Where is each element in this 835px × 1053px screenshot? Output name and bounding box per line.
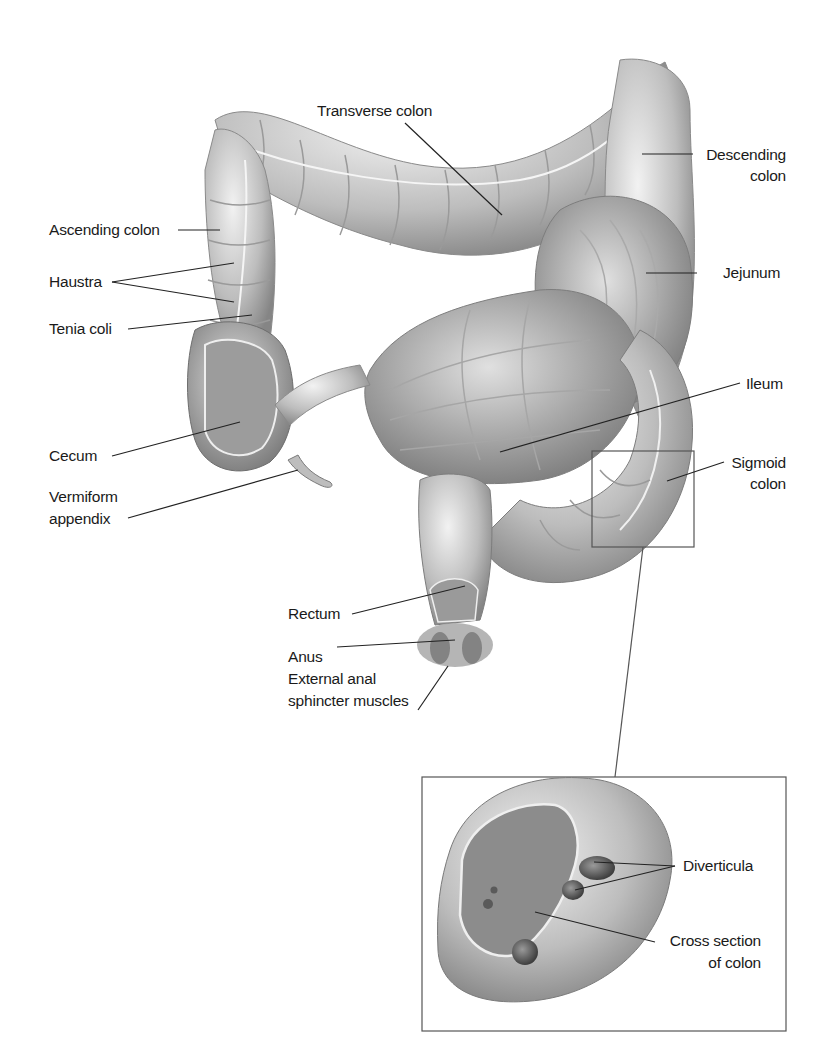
label-transverse-colon: Transverse colon	[317, 101, 432, 120]
label-vermiform-appendix-line1: Vermiform	[49, 487, 118, 506]
label-jejunum: Jejunum	[723, 263, 780, 282]
label-haustra: Haustra	[49, 272, 102, 291]
rectum-shape	[417, 474, 493, 667]
label-tenia-coli: Tenia coli	[49, 319, 112, 338]
label-descending-colon-line2: colon	[698, 166, 786, 185]
label-rectum: Rectum	[288, 604, 340, 623]
ileum-shape	[365, 290, 640, 484]
label-cecum: Cecum	[49, 446, 97, 465]
label-external-anal-line1: External anal	[288, 669, 376, 688]
label-ileum: Ileum	[746, 374, 783, 393]
cecum-shape	[188, 322, 294, 471]
label-ascending-colon: Ascending colon	[49, 220, 160, 239]
label-sigmoid-colon-line1: Sigmoid	[700, 453, 786, 472]
label-diverticula: Diverticula	[683, 856, 753, 875]
label-sigmoid-colon-line2: colon	[700, 474, 786, 493]
label-anus: Anus	[288, 647, 323, 666]
label-vermiform-appendix-line2: appendix	[49, 509, 110, 528]
label-descending-colon-line1: Descending	[698, 145, 786, 164]
label-cross-section-line1: Cross section	[640, 931, 761, 950]
label-external-anal-line2: sphincter muscles	[288, 691, 409, 710]
label-cross-section-line2: of colon	[640, 953, 761, 972]
